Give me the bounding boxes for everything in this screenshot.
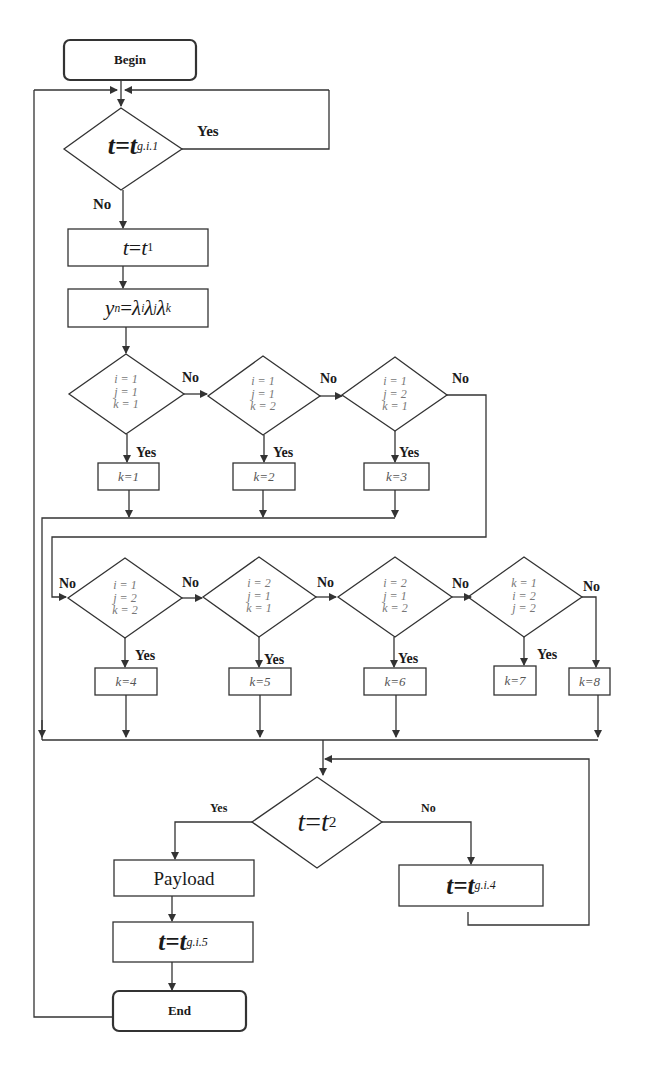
decision-7-condition: k = 1i = 2j = 2 [494,577,554,615]
decision-3-no-entry-label: No [59,577,76,591]
decision-7-yes-label: Yes [537,648,557,662]
result-k7: k=7 [494,666,536,695]
step-g4-label: t=tg.i.4 [399,865,543,906]
decision-bottom-no-label: No [421,802,436,814]
decision-6-yes-label: Yes [398,652,418,666]
result-k1: k=1 [98,463,159,490]
decision-3-condition: i = 1j = 2k = 1 [365,375,425,413]
result-k8: k=8 [569,668,610,695]
flowchart-lines [0,0,649,1075]
result-k6: k=6 [364,668,426,695]
decision-7-no-label: No [583,580,600,594]
decision-5-yes-label: Yes [264,653,284,667]
decision-1-yes-label: Yes [136,446,156,460]
result-k2: k=2 [233,463,295,490]
decision-6-condition: i = 2j = 1k = 2 [365,577,425,615]
flowchart-canvas: Begin End t=tg.i.1 Yes No t = t1 yn = λi… [0,0,649,1075]
decision-1-condition: i = 1j = 1k = 1 [96,373,156,411]
decision-4-condition: i = 1j = 2k = 2 [95,579,155,617]
decision-4-no-label: No [182,576,199,590]
begin-label: Begin [64,53,196,66]
step-g5-label: t=tg.i.5 [113,922,253,962]
decision-4-yes-label: Yes [135,649,155,663]
decision-2-yes-label: Yes [273,446,293,460]
decision-1-no-label: No [182,371,199,385]
payload-label: Payload [114,869,254,888]
decision-bottom-yes-label: Yes [210,802,227,814]
decision-top-condition: t=tg.i.1 [78,132,188,160]
result-k3: k=3 [364,463,429,490]
decision-3-yes-label: Yes [399,446,419,460]
decision-5-condition: i = 2j = 1k = 1 [229,577,289,615]
result-k5: k=5 [229,668,291,695]
decision-top-yes-label: Yes [197,124,219,139]
result-k4: k=4 [95,668,157,695]
decision-bottom-condition: t=t2 [262,805,372,839]
step-yn-label: yn = λiλjλk [68,289,208,327]
decision-2-no-label: No [320,372,337,386]
decision-3-no-label: No [452,372,469,386]
decision-5-no-label: No [317,576,334,590]
decision-2-condition: i = 1j = 1k = 2 [233,375,293,413]
end-label: End [113,1004,246,1017]
decision-top-no-label: No [93,197,111,212]
step-t1-label: t = t1 [68,229,208,266]
decision-6-no-label: No [452,577,469,591]
